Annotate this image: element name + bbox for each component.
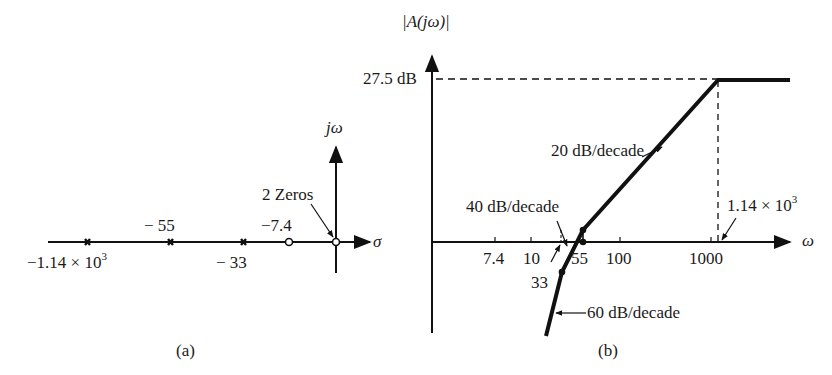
tick-1000: 1000 — [689, 250, 723, 267]
zero-circle-icon — [333, 239, 340, 246]
tick-100: 100 — [606, 250, 632, 267]
corner-high-label: 1.14 × 103 — [727, 197, 797, 214]
zero-circle-icon — [286, 239, 293, 246]
slope-60-label: 60 dB/decade — [587, 304, 680, 321]
corner-33-label: 33 — [531, 274, 548, 291]
pole-label-1140: −1.14 × 103 — [27, 254, 107, 271]
pole-label-33: − 33 — [216, 254, 247, 271]
corner-high-pointer — [722, 218, 736, 240]
zeros-pointer-arrow — [311, 204, 333, 237]
caption-a: (a) — [176, 342, 195, 359]
level-label: 27.5 dB — [363, 70, 417, 87]
breakpoint-dot — [580, 227, 587, 234]
slope-20-label: 20 dB/decade — [551, 142, 644, 159]
corner33-pointer — [551, 245, 560, 262]
zero-label-7-4: −7.4 — [261, 217, 292, 234]
breakpoint-dot — [580, 239, 587, 246]
zeros-annotation: 2 Zeros — [262, 186, 313, 203]
omega-axis-label: ω — [802, 232, 814, 249]
breakpoint-dot — [559, 269, 566, 276]
tick-55: 55 — [571, 250, 588, 267]
tick-10: 10 — [523, 250, 540, 267]
tick-7-4: 7.4 — [483, 250, 504, 267]
jw-axis-label: jω — [326, 119, 343, 136]
slope-40-label: 40 dB/decade — [466, 198, 559, 215]
magnitude-axis-label: |A(jω)| — [402, 13, 450, 30]
pole-label-55: − 55 — [144, 217, 175, 234]
caption-b: (b) — [598, 342, 618, 359]
sigma-axis-label: σ — [373, 233, 381, 250]
diagram-canvas — [0, 0, 832, 375]
